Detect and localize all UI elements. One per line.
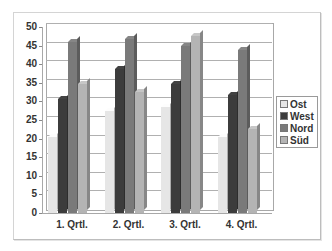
bar-süd-q4 <box>248 129 257 213</box>
y-tick-label: 25 <box>17 115 37 125</box>
x-tick-label: 1. Qrtl. <box>44 219 100 230</box>
bar-nord-q2 <box>125 39 134 213</box>
x-tick-label: 3. Qrtl. <box>157 219 213 230</box>
y-tick-label: 35 <box>17 78 37 88</box>
bar-ost-q3 <box>161 107 170 213</box>
bar-ost-q1 <box>48 137 57 213</box>
legend-item-west: West <box>280 111 314 123</box>
bar-ost-q4 <box>218 137 227 213</box>
y-tick-label: 10 <box>17 171 37 181</box>
bar-nord-q1 <box>68 42 77 213</box>
y-tick-label: 5 <box>17 189 37 199</box>
y-tick-mark <box>39 213 42 214</box>
y-tick-mark <box>39 120 42 121</box>
y-tick-label: 50 <box>17 22 37 32</box>
bar-west-q3 <box>171 84 180 213</box>
y-tick-mark <box>39 83 42 84</box>
legend-swatch <box>280 124 288 132</box>
side-wall <box>42 27 47 213</box>
legend-label: Süd <box>290 135 309 146</box>
y-tick-label: 0 <box>17 208 37 218</box>
y-tick-label: 30 <box>17 96 37 106</box>
y-tick-mark <box>39 64 42 65</box>
y-tick-mark <box>39 194 42 195</box>
bar-nord-q4 <box>238 50 247 213</box>
legend-swatch <box>280 112 288 120</box>
bar-west-q4 <box>228 95 237 213</box>
x-tick-label: 2. Qrtl. <box>101 219 157 230</box>
y-tick-mark <box>39 157 42 158</box>
x-tick-label: 4. Qrtl. <box>214 219 270 230</box>
y-tick-label: 45 <box>17 41 37 51</box>
y-tick-label: 15 <box>17 152 37 162</box>
y-tick-label: 40 <box>17 59 37 69</box>
legend-swatch <box>280 100 288 108</box>
legend-label: Nord <box>290 123 313 134</box>
bar-süd-q2 <box>135 92 144 213</box>
bar-süd-q3 <box>191 36 200 213</box>
legend: Ost West Nord Süd <box>276 96 318 148</box>
y-tick-mark <box>39 46 42 47</box>
plot-area <box>42 27 268 213</box>
y-tick-mark <box>39 101 42 102</box>
bar-west-q1 <box>58 99 67 213</box>
legend-label: Ost <box>290 99 307 110</box>
legend-item-nord: Nord <box>280 123 313 135</box>
bar-ost-q2 <box>105 111 114 213</box>
y-tick-mark <box>39 176 42 177</box>
legend-item-sud: Süd <box>280 135 309 147</box>
gridline <box>46 23 272 24</box>
bar-süd-q1 <box>78 84 87 213</box>
y-tick-label: 20 <box>17 134 37 144</box>
legend-swatch <box>280 136 288 144</box>
bar-nord-q3 <box>181 46 190 213</box>
floor <box>42 213 272 214</box>
y-tick-mark <box>39 139 42 140</box>
legend-item-ost: Ost <box>280 99 307 111</box>
y-tick-mark <box>39 27 42 28</box>
bar-west-q2 <box>115 69 124 213</box>
legend-label: West <box>290 111 314 122</box>
